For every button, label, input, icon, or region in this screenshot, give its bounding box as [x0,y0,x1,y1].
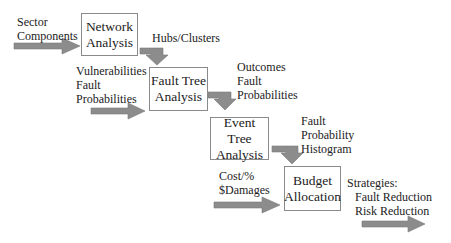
input-arrow-cost [214,197,280,213]
network-analysis-line2: Analysis [86,35,133,51]
strategies-line2: Fault Reduction [347,190,432,204]
vulnerabilities-line2: Fault [76,78,147,92]
cost-damages-label: Cost/% $Damages [219,169,270,197]
vulnerabilities-line3: Probabilities [76,92,147,106]
cost-line2: $Damages [219,183,270,197]
fault-tree-line2: Analysis [151,89,206,105]
vulnerabilities-label: Vulnerabilities Fault Probabilities [76,64,147,106]
strategies-line1: Strategies: [347,176,432,190]
budget-line1: Budget [284,173,341,189]
outcomes-label: Outcomes Fault Probabilities [237,60,298,102]
outcomes-line3: Probabilities [237,88,298,102]
histogram-label: Fault Probability Histogram [301,114,354,156]
vulnerabilities-line1: Vulnerabilities [76,64,147,78]
outcomes-line2: Fault [237,74,298,88]
output-arrow-strategies [362,216,425,232]
histogram-line1: Fault [301,114,354,128]
hubs-text: Hubs/Clusters [152,31,220,45]
sector-line1: Sector [17,15,78,29]
event-tree-line1: Event Tree [211,115,268,147]
event-tree-line2: Analysis [211,147,268,163]
strategies-label: Strategies: Fault Reduction Risk Reducti… [347,176,432,218]
bent-arrow-network-to-fault [140,48,168,65]
hubs-clusters-label: Hubs/Clusters [152,31,220,45]
histogram-line3: Histogram [301,142,354,156]
budget-allocation-box: Budget Allocation [284,166,341,211]
event-tree-analysis-box: Event Tree Analysis [210,117,269,160]
sector-components-label: Sector Components [17,15,78,43]
bent-arrow-event-to-budget [272,146,303,164]
network-analysis-line1: Network [86,19,133,35]
cost-line1: Cost/% [219,169,270,183]
network-analysis-box: Network Analysis [81,13,138,56]
strategies-line3: Risk Reduction [347,204,432,218]
budget-line2: Allocation [284,189,341,205]
sector-line2: Components [17,29,78,43]
outcomes-line1: Outcomes [237,60,298,74]
fault-tree-line1: Fault Tree [151,73,206,89]
bent-arrow-fault-to-event [208,92,236,110]
fault-tree-analysis-box: Fault Tree Analysis [149,67,208,111]
histogram-line2: Probability [301,128,354,142]
